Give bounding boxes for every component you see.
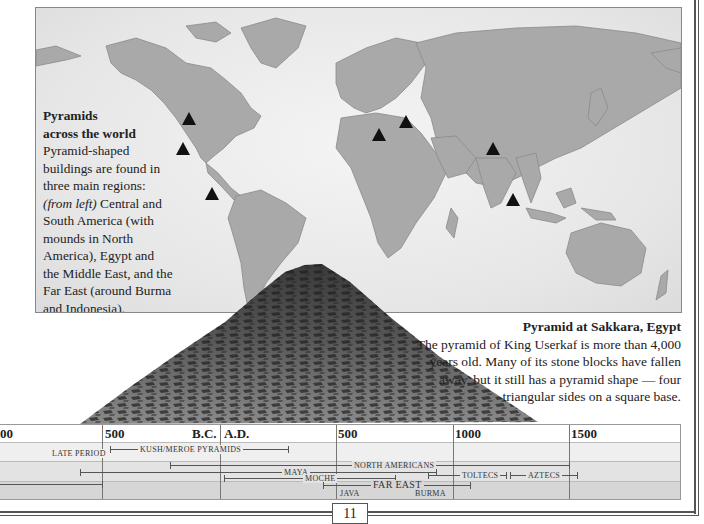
- bar-cap: [110, 446, 111, 453]
- triangle-marker-icon: [182, 112, 196, 125]
- bar-cap: [224, 475, 225, 482]
- tick-label: 500: [105, 426, 125, 442]
- triangle-marker-icon: [205, 187, 219, 200]
- tick-label: 00: [0, 426, 13, 442]
- map-caption-title-line2: across the world: [43, 125, 173, 143]
- bar-maya: [80, 472, 436, 473]
- bar-cap: [323, 482, 324, 489]
- map-caption-body-part1: Pyramid-shaped buildings are found in th…: [43, 143, 160, 193]
- bar-cap: [428, 472, 429, 479]
- bar-label-aztecs: Aztecs: [526, 471, 562, 480]
- bar-label-far-east: Far East: [371, 480, 424, 489]
- tick-label: 1500: [571, 426, 597, 442]
- bar-label-toltecs: Toltecs: [460, 471, 500, 480]
- bar-cap: [80, 469, 81, 476]
- gridline-bc-ad: [220, 425, 221, 499]
- map-caption-title-line1: Pyramids: [43, 107, 173, 125]
- bar-cap: [510, 472, 511, 479]
- page-number: 11: [332, 503, 368, 524]
- bar-label-kush-meroe: Kush/Meroe Pyramids: [138, 445, 243, 454]
- tick-label: 1000: [455, 426, 481, 442]
- tick-label: B.C.: [192, 426, 217, 442]
- bar-label-north-americans: North Americans: [352, 461, 436, 470]
- bar-label-burma: Burma: [413, 489, 448, 498]
- bar-cap: [102, 481, 103, 488]
- bar-cap: [577, 472, 578, 479]
- triangle-marker-icon: [506, 193, 520, 206]
- page-frame-right-inner: [698, 0, 699, 516]
- gridline-500ad: [336, 425, 337, 499]
- bar-cap: [506, 472, 507, 479]
- triangle-marker-icon: [176, 142, 190, 155]
- tick-label: 500: [338, 426, 358, 442]
- timeline-chart: 00 500 B.C. A.D. 500 1000 1500 Late Peri…: [0, 424, 681, 500]
- tick-label: A.D.: [224, 426, 249, 442]
- bar-cap: [569, 462, 570, 469]
- bar-label-java: Java: [338, 489, 362, 498]
- gridline-1000ad: [453, 425, 454, 499]
- page-frame-right: [694, 0, 696, 514]
- photo-caption-title: Pyramid at Sakkara, Egypt: [400, 318, 681, 336]
- photo-caption-body: The pyramid of King Userkaf is more than…: [400, 336, 681, 406]
- bar-label-late-period: Late Period: [50, 449, 108, 458]
- bar-label-moche: Moche: [303, 474, 337, 483]
- triangle-marker-icon: [399, 115, 413, 128]
- triangle-marker-icon: [486, 142, 500, 155]
- triangle-marker-icon: [372, 128, 386, 141]
- bar-late-period: [0, 484, 102, 485]
- photo-caption: Pyramid at Sakkara, Egypt The pyramid of…: [400, 318, 681, 406]
- bar-cap: [470, 482, 471, 489]
- bar-cap: [288, 446, 289, 453]
- bar-cap: [170, 462, 171, 469]
- map-caption-italic: (from left): [43, 196, 97, 211]
